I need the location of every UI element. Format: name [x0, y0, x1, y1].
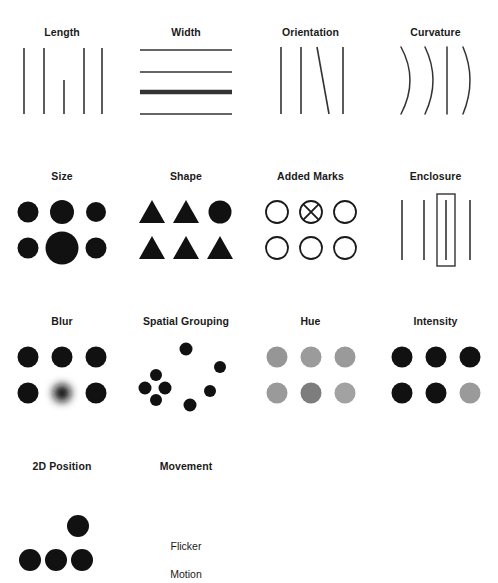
cell-label-orientation: Orientation — [248, 26, 373, 38]
stage-movement: Flicker Motion — [124, 482, 248, 577]
width-glyph — [138, 44, 234, 116]
stage-blur — [0, 337, 124, 432]
stage-shape — [124, 192, 248, 287]
preattentive-features-figure: Length Width — [0, 0, 498, 583]
position-glyph — [16, 482, 108, 572]
shape-glyph — [136, 192, 236, 266]
cell-width: Width — [124, 0, 248, 148]
cell-empty-4 — [373, 438, 498, 583]
x-mark-icon — [303, 204, 319, 220]
stage-hue — [248, 337, 373, 432]
movement-sublabel-motion: Motion — [124, 568, 248, 580]
stage-enclosure — [373, 192, 498, 287]
cell-added-marks: Added Marks — [248, 148, 373, 293]
cell-label-blur: Blur — [0, 315, 124, 327]
cell-spatial-grouping: Spatial Grouping — [124, 293, 248, 438]
stage-2d-position — [0, 482, 124, 577]
movement-sublabel-flicker: Flicker — [124, 540, 248, 552]
stage-width — [124, 44, 248, 142]
cell-movement: Movement Flicker Motion — [124, 438, 248, 583]
cell-empty-3 — [248, 438, 373, 583]
stage-size — [0, 192, 124, 287]
added-marks-glyph — [263, 192, 359, 266]
cell-label-length: Length — [0, 26, 124, 38]
cell-shape: Shape — [124, 148, 248, 293]
stage-added-marks — [248, 192, 373, 287]
cell-label-spatial-grouping: Spatial Grouping — [124, 315, 248, 327]
cell-label-width: Width — [124, 26, 248, 38]
cell-orientation: Orientation — [248, 0, 373, 148]
cell-label-added-marks: Added Marks — [248, 170, 373, 182]
size-glyph — [12, 192, 112, 266]
cell-label-size: Size — [0, 170, 124, 182]
intensity-glyph — [388, 337, 484, 411]
cell-blur: Blur — [0, 293, 124, 438]
spatial-grouping-glyph — [134, 337, 238, 417]
cell-hue: Hue — [248, 293, 373, 438]
cell-curvature: Curvature — [373, 0, 498, 148]
cell-label-hue: Hue — [248, 315, 373, 327]
cell-length: Length — [0, 0, 124, 148]
orientation-glyph — [273, 44, 349, 116]
cell-2d-position: 2D Position — [0, 438, 124, 583]
cell-label-enclosure: Enclosure — [373, 170, 498, 182]
enclosure-glyph — [394, 192, 478, 266]
stage-spatial-grouping — [124, 337, 248, 432]
hue-glyph — [263, 337, 359, 411]
cell-enclosure: Enclosure — [373, 148, 498, 293]
curvature-glyph — [395, 44, 477, 116]
stage-length — [0, 44, 124, 142]
cell-label-intensity: Intensity — [373, 315, 498, 327]
length-glyph — [16, 44, 108, 116]
blurred-dot — [53, 384, 71, 402]
feature-grid: Length Width — [0, 0, 498, 583]
blur-glyph — [12, 337, 112, 411]
cell-label-movement: Movement — [124, 460, 248, 472]
cell-size: Size — [0, 148, 124, 293]
stage-orientation — [248, 44, 373, 142]
stage-intensity — [373, 337, 498, 432]
stage-curvature — [373, 44, 498, 142]
cell-label-curvature: Curvature — [373, 26, 498, 38]
cell-label-2d-position: 2D Position — [0, 460, 124, 472]
cell-intensity: Intensity — [373, 293, 498, 438]
cell-label-shape: Shape — [124, 170, 248, 182]
